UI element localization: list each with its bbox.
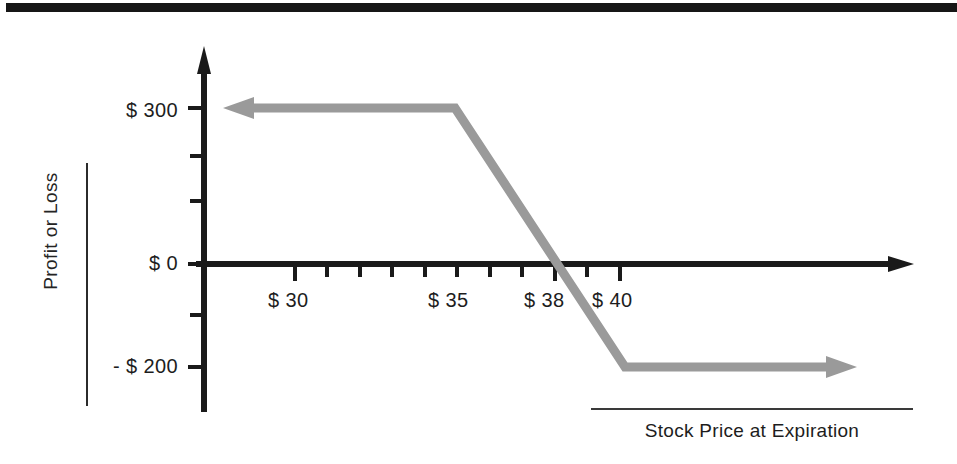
y-tick-label-minus-200: - $ 200 [60, 355, 178, 378]
payoff-left-arrowhead [223, 97, 254, 119]
payoff-line [223, 97, 857, 378]
y-axis [197, 46, 211, 412]
x-axis-title-rule [591, 408, 913, 410]
x-tick-label-38: $ 38 [524, 289, 565, 312]
payoff-diagram-canvas [0, 0, 957, 464]
y-axis-title-rule [86, 163, 88, 406]
x-tick-label-40: $ 40 [592, 289, 633, 312]
x-tick-label-30: $ 30 [268, 289, 309, 312]
x-axis-title: Stock Price at Expiration [591, 420, 913, 442]
y-tick-label-0: $ 0 [60, 252, 178, 275]
x-tick-label-35: $ 35 [428, 289, 469, 312]
y-tick-label-300: $ 300 [60, 99, 178, 122]
chart-figure: $ 300 $ 0 - $ 200 $ 30 $ 35 $ 38 $ 40 Pr… [0, 0, 957, 464]
payoff-right-arrowhead [826, 356, 857, 378]
y-axis-title: Profit or Loss [40, 156, 62, 306]
